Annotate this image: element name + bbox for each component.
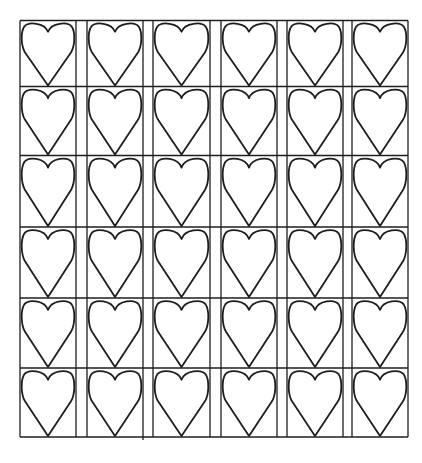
heart-grid-sheet (0, 0, 422, 463)
